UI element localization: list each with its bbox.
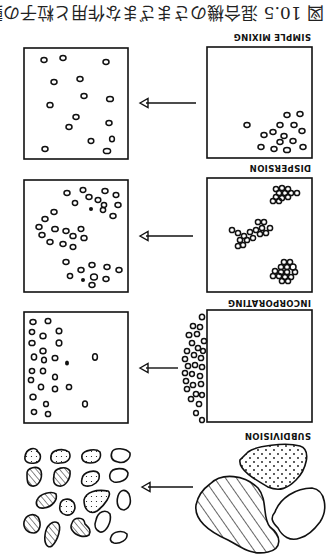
stage-subdivision: SUBDIVISION xyxy=(24,431,325,553)
large-lumps xyxy=(196,444,325,553)
arrow-left-icon xyxy=(140,232,193,241)
stage-incorporating: INCORPORATING xyxy=(24,298,312,423)
dispersed-particles xyxy=(36,188,122,288)
small-pieces xyxy=(24,449,131,547)
clustered-particles xyxy=(244,112,306,153)
before-box-incorporating xyxy=(207,310,312,422)
incorporated-particles xyxy=(28,318,97,416)
label-dispersion: DISPERSION xyxy=(249,163,311,173)
label-subdivision: SUBDIVISION xyxy=(245,431,311,441)
arrow-left-icon xyxy=(140,99,196,108)
figure-caption: 図 10.5 混合機のさまざまな作用と粒子の動き xyxy=(0,3,324,23)
svg-text:図 10.5 混合機のさまざまな作用と粒子の動き: 図 10.5 混合機のさまざまな作用と粒子の動き xyxy=(0,3,324,23)
arrow-left-icon xyxy=(140,364,178,373)
stage-dispersion: DISPERSION xyxy=(24,163,312,292)
outside-particles xyxy=(182,314,206,422)
label-simple-mixing: SIMPLE MIXING xyxy=(234,32,311,42)
mixing-mechanisms-diagram: 図 10.5 混合機のさまざまな作用と粒子の動き SIMPLE MIXING xyxy=(0,0,329,560)
agglomerate-clusters xyxy=(229,185,299,283)
stage-simple-mixing: SIMPLE MIXING xyxy=(24,32,312,159)
arrow-left-icon xyxy=(142,483,193,492)
after-box-incorporating xyxy=(24,312,128,423)
scattered-particles xyxy=(41,56,114,154)
label-incorporating: INCORPORATING xyxy=(228,298,311,308)
